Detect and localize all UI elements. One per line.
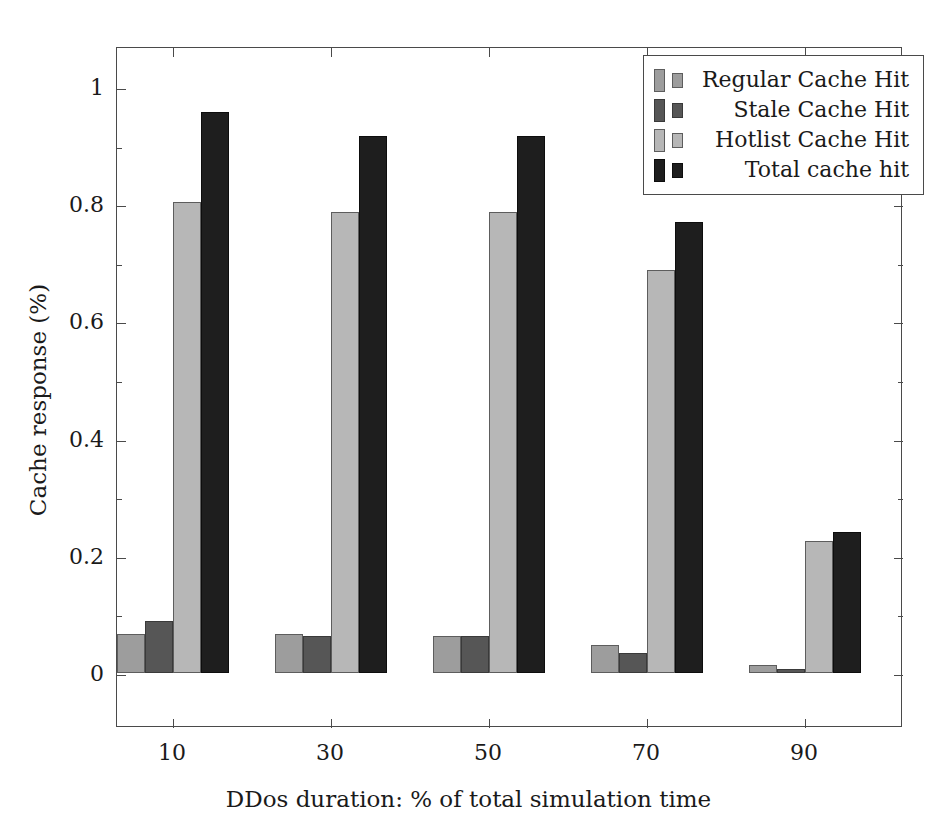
legend-color-swatch [654,69,665,92]
x-tick-label: 90 [790,742,818,764]
bar [173,202,201,673]
y-tick-mark [117,323,126,324]
x-tick-mark [647,719,648,728]
y-tick-label: 0.2 [0,546,104,568]
y-minor-tick-mark-right [898,265,903,266]
legend-label: Hotlist Cache Hit [694,129,909,151]
bar [749,665,777,673]
bar [619,653,647,674]
legend-item: Regular Cache Hit [654,65,909,95]
x-tick-mark [805,719,806,728]
y-minor-tick-mark-right [898,499,903,500]
y-minor-tick-mark [117,265,122,266]
legend-color-swatch [654,159,665,182]
x-tick-mark-top [489,48,490,57]
y-tick-mark [117,558,126,559]
y-axis-title-text: Cache response (%) [25,284,51,516]
bar [777,669,805,673]
y-minor-tick-mark [117,616,122,617]
legend-swatch-group [654,99,694,122]
y-tick-mark-right [894,558,903,559]
bar [805,541,833,673]
y-tick-mark [117,89,126,90]
x-tick-mark [489,719,490,728]
bar [331,212,359,673]
y-tick-label: 0.8 [0,194,104,216]
y-tick-mark-right [894,441,903,442]
y-tick-mark [117,441,126,442]
bar [461,636,489,673]
legend-color-swatch [672,163,683,178]
y-tick-label: 0.6 [0,311,104,333]
x-tick-label: 70 [632,742,660,764]
chart-legend: Regular Cache HitStale Cache HitHotlist … [643,55,924,195]
bar-chart-figure: 00.20.40.60.81 1030507090 Cache response… [0,0,937,834]
legend-swatch-group [654,159,694,182]
bar [675,222,703,673]
bar [591,645,619,673]
bar [489,212,517,673]
legend-label: Total cache hit [694,159,909,181]
legend-color-swatch [654,129,665,152]
y-minor-tick-mark-right [898,382,903,383]
bar [303,636,331,673]
bar [359,136,387,673]
y-minor-tick-mark-right [898,616,903,617]
y-tick-mark [117,675,126,676]
x-tick-mark [173,719,174,728]
legend-swatch-group [654,129,694,152]
bar [145,621,173,673]
y-tick-label: 1 [0,77,104,99]
y-minor-tick-mark [117,382,122,383]
legend-color-swatch [672,73,683,88]
bar [117,634,145,673]
y-tick-mark-right [894,675,903,676]
legend-swatch-group [654,69,694,92]
y-minor-tick-mark [117,148,122,149]
x-tick-mark-top [331,48,332,57]
y-tick-mark-right [894,323,903,324]
x-tick-mark-top [173,48,174,57]
bar [201,112,229,673]
y-tick-label: 0.4 [0,429,104,451]
bar [275,634,303,673]
x-axis-title-text: DDos duration: % of total simulation tim… [226,786,711,812]
y-axis-title: Cache response (%) [25,100,51,700]
x-tick-mark [331,719,332,728]
y-tick-label: 0 [0,663,104,685]
y-tick-mark [117,206,126,207]
legend-color-swatch [672,103,683,118]
legend-label: Stale Cache Hit [694,99,909,121]
x-tick-label: 30 [316,742,344,764]
legend-item: Hotlist Cache Hit [654,125,909,155]
x-axis-title: DDos duration: % of total simulation tim… [0,786,937,812]
bar [517,136,545,673]
x-tick-label: 50 [474,742,502,764]
legend-label: Regular Cache Hit [694,69,909,91]
x-tick-label: 10 [158,742,186,764]
y-minor-tick-mark [117,499,122,500]
bar [647,270,675,673]
legend-item: Total cache hit [654,155,909,185]
bar [433,636,461,674]
legend-item: Stale Cache Hit [654,95,909,125]
legend-color-swatch [654,99,665,122]
bar [833,532,861,673]
y-tick-mark-right [894,206,903,207]
legend-color-swatch [672,133,683,148]
